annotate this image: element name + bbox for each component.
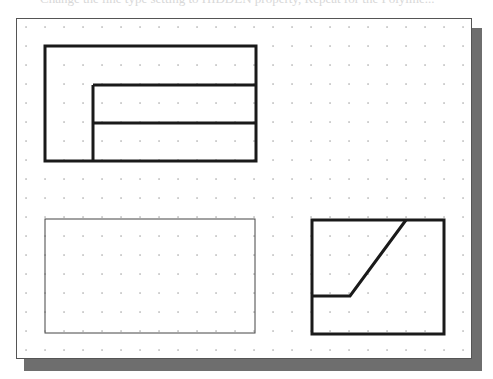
front-view-outline[interactable] [45, 219, 255, 333]
top-view[interactable] [45, 46, 256, 161]
top-view-outline[interactable] [45, 46, 256, 161]
side-view[interactable] [312, 220, 444, 334]
drawing-canvas[interactable] [0, 0, 493, 379]
side-view-slant-line[interactable] [312, 220, 406, 296]
front-view[interactable] [45, 219, 255, 333]
grid-dots [25, 26, 463, 350]
side-view-outline[interactable] [312, 220, 444, 334]
